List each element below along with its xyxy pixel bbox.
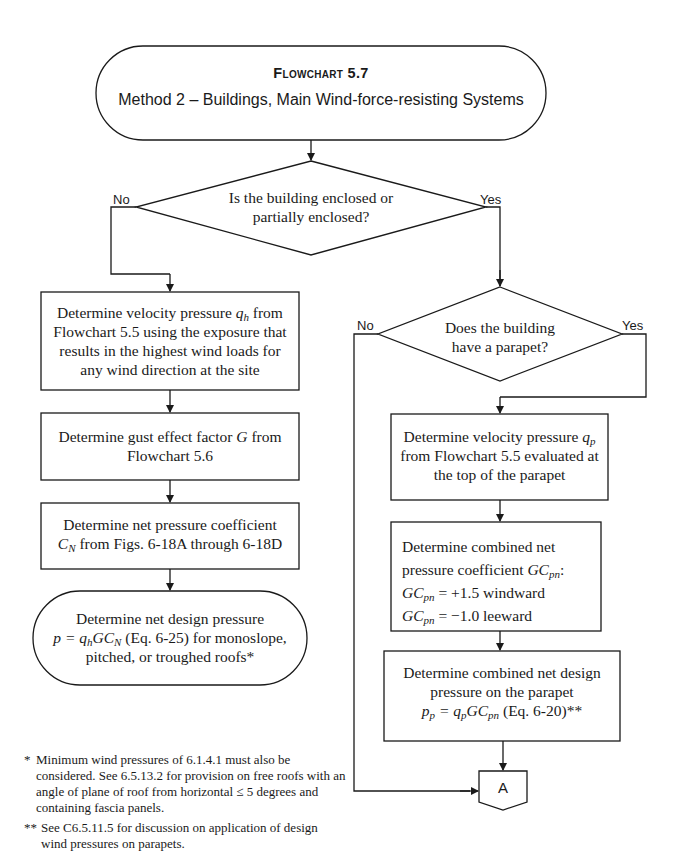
- text: pressure coefficient: [402, 561, 527, 578]
- text: from Figs. 6-18A through 6-18D: [76, 535, 283, 552]
- step-velocity-pressure-qp: Determine velocity pressure qp from Flow…: [391, 427, 608, 484]
- var-gc: GC: [402, 584, 424, 601]
- text: Determine velocity pressure: [57, 304, 236, 321]
- decision-enclosed-yes-label: Yes: [480, 192, 501, 207]
- footnote-marker: **: [24, 820, 37, 836]
- text: considered. See 6.5.13.2 for provision o…: [36, 768, 354, 784]
- formula: GC: [93, 629, 115, 646]
- text: from: [249, 304, 283, 321]
- step-gust-effect-factor: Determine gust effect factor G from Flow…: [41, 427, 299, 465]
- text: any wind direction at the site: [41, 360, 299, 379]
- var-c: C: [58, 535, 68, 552]
- text: pressure on the parapet: [384, 682, 620, 701]
- text: Determine net pressure coefficient: [41, 515, 299, 534]
- sub-pn: pn: [549, 568, 560, 580]
- flowchart-heading: Flowchart 5.7: [96, 64, 546, 83]
- text: wind pressures on parapets.: [41, 836, 354, 852]
- step-combined-design-pressure: Determine combined net design pressure o…: [384, 663, 620, 720]
- text: :: [560, 561, 564, 578]
- text: Determine velocity pressure: [404, 428, 583, 445]
- sub: pn: [488, 709, 499, 721]
- text: (Eq. 6-25) for monoslope,: [121, 629, 286, 646]
- formula: GC: [467, 702, 489, 719]
- decision-parapet-text: Does the building have a parapet?: [410, 318, 590, 356]
- text: Determine combined net: [402, 535, 602, 558]
- text: the top of the parapet: [391, 465, 608, 484]
- leeward-value: = −1.0 leeward: [435, 607, 533, 624]
- var-gc: GC: [402, 607, 424, 624]
- formula: p = q: [53, 629, 87, 646]
- text: Determine net design pressure: [33, 609, 307, 628]
- footnote-marker: *: [24, 752, 31, 768]
- text: (Eq. 6-20)**: [499, 702, 582, 719]
- text: See C6.5.11.5 for discussion on applicat…: [41, 820, 354, 836]
- text: containing fascia panels.: [36, 800, 354, 816]
- text: Determine combined net design: [384, 663, 620, 682]
- windward-value: = +1.5 windward: [435, 584, 545, 601]
- sub-n: N: [68, 542, 75, 554]
- var-p: p: [422, 702, 430, 719]
- decision-parapet-yes-label: Yes: [622, 318, 643, 333]
- var-q: q: [582, 428, 590, 445]
- text: pitched, or troughed roofs*: [33, 647, 307, 666]
- text: angle of plane of roof from horizontal ≤…: [36, 784, 354, 800]
- footnote-2: ** See C6.5.11.5 for discussion on appli…: [24, 820, 354, 852]
- text: Determine gust effect factor: [58, 428, 236, 445]
- formula: = q: [435, 702, 461, 719]
- text: Does the building: [410, 318, 590, 337]
- connector-a-label: A: [479, 779, 527, 796]
- decision-parapet-no-label: No: [357, 318, 374, 333]
- var-gc: GC: [527, 561, 549, 578]
- text: from Flowchart 5.5 evaluated at: [391, 446, 608, 465]
- step-net-pressure-coefficient: Determine net pressure coefficient CN fr…: [41, 515, 299, 553]
- decision-enclosed-line1: Is the building enclosed or: [181, 188, 441, 207]
- sub-pn: pn: [424, 614, 435, 626]
- step-combined-net-coefficient: Determine combined net pressure coeffici…: [402, 535, 602, 627]
- decision-enclosed-no-label: No: [113, 192, 130, 207]
- text: Minimum wind pressures of 6.1.4.1 must a…: [36, 752, 354, 768]
- footnote-1: * Minimum wind pressures of 6.1.4.1 must…: [24, 752, 354, 816]
- text: from: [248, 428, 282, 445]
- text: Flowchart 5.5 using the exposure that: [41, 322, 299, 341]
- flowchart-subtitle: Method 2 – Buildings, Main Wind-force-re…: [96, 90, 546, 109]
- decision-enclosed-text: Is the building enclosed or partially en…: [181, 188, 441, 226]
- text: Flowchart 5.6: [41, 446, 299, 465]
- var-g: G: [236, 428, 247, 445]
- sub-pn: pn: [424, 591, 435, 603]
- step-net-design-pressure: Determine net design pressure p = qhGCN …: [33, 609, 307, 666]
- text: results in the highest wind loads for: [41, 341, 299, 360]
- step-velocity-pressure-qh: Determine velocity pressure qh from Flow…: [41, 303, 299, 379]
- decision-enclosed-line2: partially enclosed?: [181, 207, 441, 226]
- text: have a parapet?: [410, 337, 590, 356]
